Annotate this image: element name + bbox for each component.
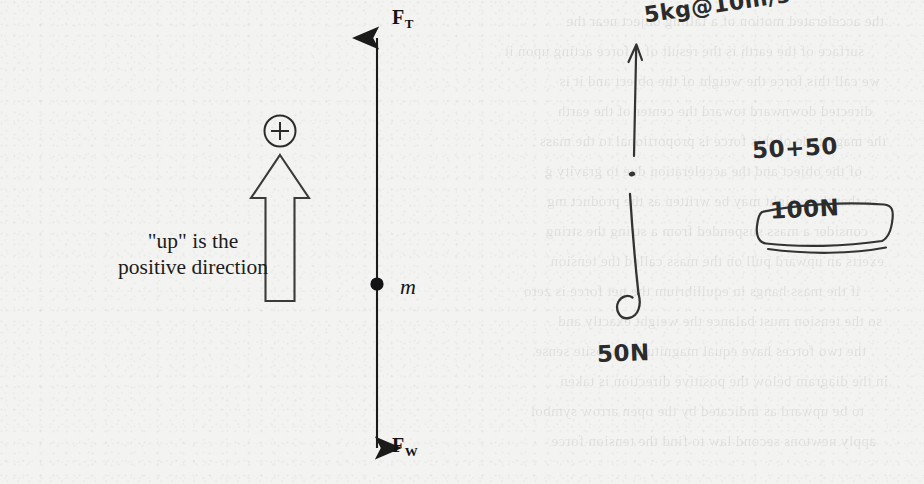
handwritten-up-arrow-head <box>629 45 643 63</box>
annotation-force-sum: 50+50 <box>751 133 838 163</box>
bleed-line: apply newtons second law to find the ten… <box>551 426 876 457</box>
handwritten-down-arrow-shaft <box>630 194 639 294</box>
handwritten-dot <box>628 171 635 177</box>
annotation-result-value: 100N <box>769 194 840 224</box>
mass-label: m <box>400 274 416 300</box>
annotation-mass-gravity-text: 5kg@10m/s <box>643 0 792 27</box>
bleed-line: in the diagram below the positive direct… <box>560 366 888 397</box>
weight-force-subscript: W <box>405 444 418 459</box>
caption-line-1: "up" is the <box>88 228 298 254</box>
weight-force-symbol: F <box>392 434 404 456</box>
tension-force-subscript: T <box>405 16 414 31</box>
handwritten-up-arrow-shaft <box>634 48 636 156</box>
bleed-line: to be upward as indicated by the open ar… <box>530 396 864 427</box>
weight-force-label: FW <box>392 434 417 457</box>
caption-line-2: positive direction <box>88 254 298 280</box>
bleed-line: so the tension must balance the weight e… <box>558 306 882 337</box>
bleed-line: the two forces have equal magnitude oppo… <box>535 336 866 367</box>
annotation-weight-value: 50N <box>597 339 651 367</box>
tension-force-label: FT <box>392 6 413 29</box>
result-box-underline <box>768 248 886 253</box>
annotation-mass-times-gravity: 5kg@10m/s2 <box>642 0 800 27</box>
bleed-line: directed downward toward the center of t… <box>558 96 872 127</box>
positive-sign-circle <box>265 116 296 147</box>
bleed-line: we call this force the weight of the obj… <box>559 66 880 97</box>
positive-direction-caption: "up" is the positive direction <box>88 228 298 280</box>
scanned-page: the accelerated motion of a falling obje… <box>0 0 924 484</box>
bleed-line: of the object and the acceleration due t… <box>545 156 862 187</box>
handwritten-down-arrow-loop <box>617 294 640 318</box>
bleed-line: if the mass hangs in equilibrium the net… <box>523 276 860 307</box>
point-mass-dot <box>370 277 383 290</box>
bleed-line: exerts an upward pull on the mass called… <box>550 246 884 277</box>
bleed-line: surface of the earth is the result of a … <box>504 36 864 67</box>
tension-force-symbol: F <box>392 6 404 28</box>
